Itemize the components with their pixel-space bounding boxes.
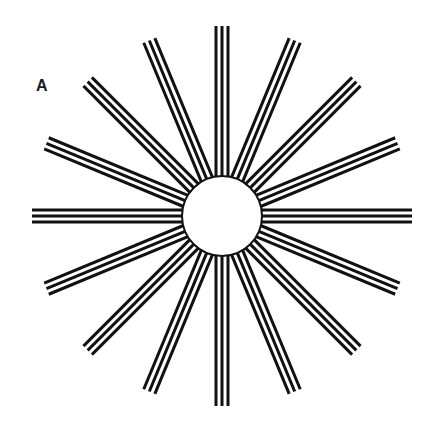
spoke-line — [49, 138, 189, 196]
spoke — [260, 210, 412, 222]
spoke — [216, 26, 228, 178]
spoke-line — [255, 236, 395, 294]
spoke — [44, 225, 189, 294]
spoke-line — [144, 249, 202, 389]
spoke — [231, 38, 300, 183]
spoke-line — [242, 43, 300, 183]
center-circle — [182, 176, 262, 256]
spoke-line — [242, 249, 300, 389]
spoke — [144, 38, 213, 183]
spoke — [231, 249, 300, 394]
spoke-line — [255, 138, 395, 196]
spoke — [144, 249, 213, 394]
starburst-diagram — [0, 0, 439, 434]
spoke — [255, 225, 400, 294]
spoke — [255, 138, 400, 207]
spoke — [32, 210, 184, 222]
spoke — [216, 254, 228, 406]
spoke — [44, 138, 189, 207]
spoke-line — [144, 43, 202, 183]
spoke-line — [49, 236, 189, 294]
